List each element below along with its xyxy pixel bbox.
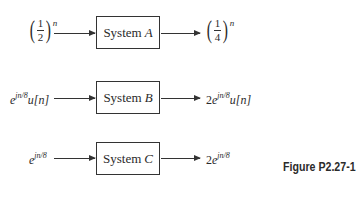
- arrow-icon: [54, 98, 95, 99]
- paren-close: ): [223, 17, 228, 43]
- system-c-block: System C: [96, 142, 160, 175]
- fraction: 1 2: [37, 18, 45, 43]
- paren-open: (: [30, 17, 35, 43]
- system-b-input: ejn/8u[n]: [10, 92, 49, 106]
- system-b-output: 2ejn/8u[n]: [206, 92, 251, 106]
- paren-open: (: [207, 17, 212, 43]
- arrow-icon: [54, 158, 95, 159]
- system-c-output: 2ejn/8: [206, 152, 230, 166]
- fraction: 1 4: [214, 18, 222, 43]
- arrow-icon: [161, 98, 200, 99]
- paren-close: ): [46, 17, 51, 43]
- system-a-block: System A: [96, 16, 160, 49]
- system-b-block: System B: [96, 81, 160, 114]
- system-a-row: ( 1 2 ) n System A ( 1 4 ) n: [0, 14, 356, 54]
- system-a-output: ( 1 4 ) n: [205, 17, 234, 43]
- system-b-row: ejn/8u[n] System B 2ejn/8u[n]: [0, 80, 356, 120]
- arrow-icon: [161, 33, 200, 34]
- system-a-input: ( 1 2 ) n: [28, 17, 57, 43]
- arrow-icon: [54, 33, 95, 34]
- figure-caption: Figure P2.27-1: [283, 160, 356, 174]
- system-c-input: ejn/8: [29, 152, 47, 166]
- arrow-icon: [161, 158, 200, 159]
